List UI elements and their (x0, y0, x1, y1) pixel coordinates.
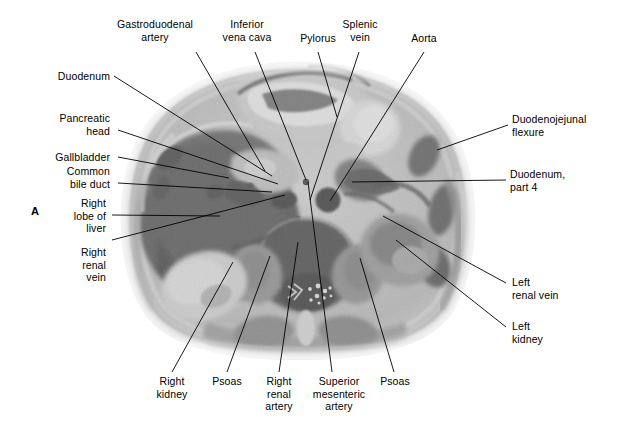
label-splenic-vein: Splenic vein (330, 18, 390, 43)
label-psoas-right: Psoas (198, 375, 256, 388)
label-gastroduodenal-artery: Gastroduodenal artery (110, 18, 200, 43)
label-right-renal-vein: Right renal vein (10, 246, 106, 284)
label-duodenum-part-4: Duodenum, part 4 (510, 168, 610, 193)
cross-section-image (112, 60, 484, 362)
label-right-lobe-of-liver: Right lobe of liver (10, 197, 106, 235)
label-inferior-vena-cava: Inferior vena cava (212, 18, 282, 43)
label-left-kidney: Left kidney (512, 320, 612, 345)
label-pancreatic-head: Pancreatic head (10, 112, 110, 137)
label-gallbladder: Gallbladder (10, 151, 110, 164)
anatomical-cross-section-photo (112, 60, 484, 362)
label-left-renal-vein: Left renal vein (512, 276, 612, 301)
label-common-bile-duct: Common bile duct (10, 165, 110, 190)
figure-letter: A (31, 205, 39, 217)
figure-page: Gastroduodenal artery Inferior vena cava… (0, 0, 625, 440)
label-right-renal-artery: Right renal artery (252, 375, 306, 413)
label-psoas-left: Psoas (366, 375, 424, 388)
label-duodenojejunal-flexure: Duodenojejunal flexure (512, 113, 620, 138)
label-aorta: Aorta (396, 32, 452, 45)
label-duodenum: Duodenum (10, 70, 110, 83)
